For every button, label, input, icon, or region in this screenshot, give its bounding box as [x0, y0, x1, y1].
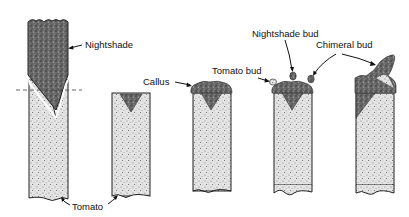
label-tomato-bud: Tomato bud: [212, 66, 262, 76]
callus-mass: [191, 81, 232, 93]
label-nightshade: Nightshade: [85, 40, 133, 50]
label-tomato: Tomato: [72, 202, 103, 212]
stage-4-buds: [258, 40, 336, 195]
stage-5-chimeral-shoot: [342, 54, 396, 194]
nightshade-bud: [290, 72, 296, 80]
stage-1-graft: [16, 20, 82, 206]
chimeral-shoot: [355, 55, 396, 93]
grafting-diagram: [0, 0, 409, 217]
label-callus: Callus: [143, 77, 169, 87]
stage-3-callus: [175, 81, 232, 192]
stage-2-cut: [108, 93, 150, 204]
chimeral-bud: [308, 75, 314, 83]
label-nightshade-bud: Nightshade bud: [252, 29, 319, 39]
label-chimeral-bud: Chimeral bud: [316, 40, 373, 50]
tomato-bud: [270, 79, 277, 85]
